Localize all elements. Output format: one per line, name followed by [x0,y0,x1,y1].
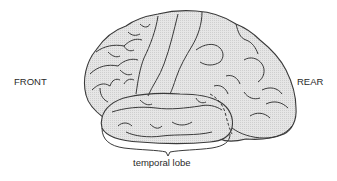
brain-illustration [0,0,337,181]
temporal-lobe-label: temporal lobe [133,158,191,168]
brain-diagram: FRONT REAR temporal lobe [0,0,337,181]
rear-label: REAR [297,77,323,87]
front-label: FRONT [14,77,47,87]
